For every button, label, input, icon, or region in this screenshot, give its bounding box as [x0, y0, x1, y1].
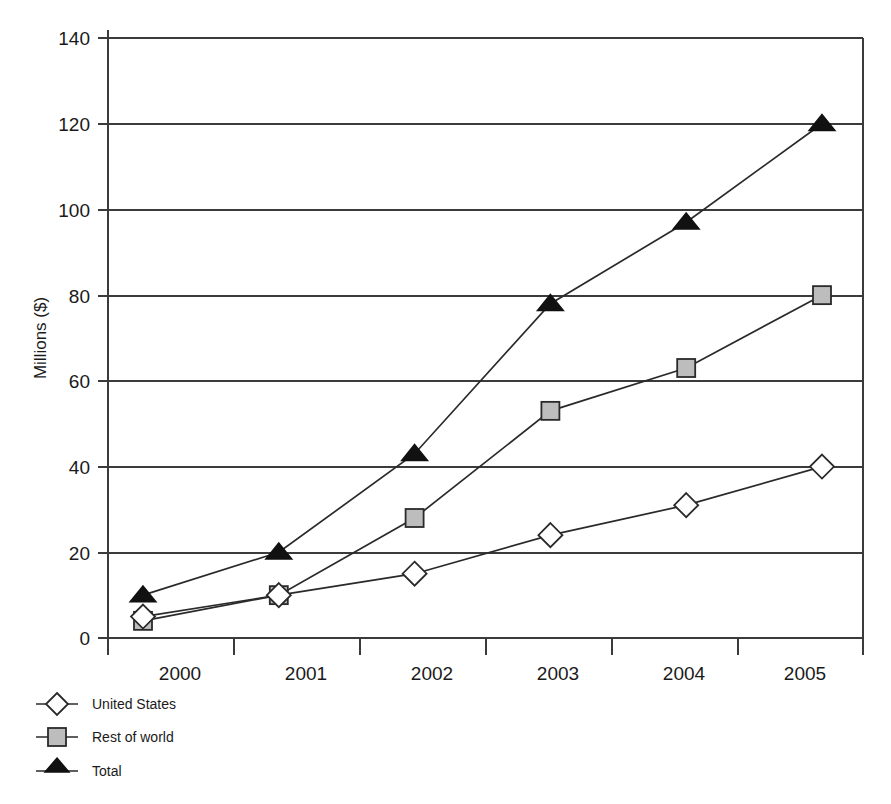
data-point-marker: [813, 286, 831, 304]
data-point-marker: [541, 402, 559, 420]
series-lines: [143, 124, 822, 621]
y-axis-title: Millions ($): [31, 297, 50, 379]
y-tick-label-40: 40: [69, 457, 90, 478]
y-tick-label-60: 60: [69, 371, 90, 392]
y-tick-label-120: 120: [58, 114, 90, 135]
y-tick-labels: 140 120 100 80 60 40 20 0: [58, 28, 90, 649]
legend-label-total: Total: [92, 763, 122, 779]
series-line-rest-of-world: [143, 295, 822, 621]
data-point-marker: [810, 455, 834, 479]
diamond-icon: [46, 693, 68, 715]
legend-label-united-states: United States: [92, 696, 176, 712]
x-tick-label-2003: 2003: [537, 663, 579, 684]
data-point-marker: [674, 493, 698, 517]
data-point-marker: [130, 586, 156, 602]
x-tick-label-2000: 2000: [159, 663, 201, 684]
series-line-united-states: [143, 467, 822, 617]
chart-svg: 140 120 100 80 60 40 20 0 Millions ($) 2…: [0, 0, 891, 804]
series-markers-rest-of-world: [134, 286, 831, 630]
y-tick-label-100: 100: [58, 200, 90, 221]
x-tick-labels: 2000 2001 2002 2003 2004 2005: [159, 663, 826, 684]
y-tick-label-140: 140: [58, 28, 90, 49]
data-point-marker: [677, 359, 695, 377]
legend-item-total[interactable]: Total: [36, 758, 122, 779]
y-tick-label-0: 0: [79, 628, 90, 649]
x-tick-label-2005: 2005: [784, 663, 826, 684]
data-point-marker: [406, 509, 424, 527]
y-tick-label-80: 80: [69, 286, 90, 307]
line-chart-figure: 140 120 100 80 60 40 20 0 Millions ($) 2…: [0, 0, 891, 804]
series-markers-total: [130, 114, 835, 601]
data-point-marker: [538, 523, 562, 547]
data-point-marker: [402, 444, 428, 460]
x-tick-marks: [108, 638, 863, 655]
legend-label-rest-of-world: Rest of world: [92, 729, 174, 745]
x-tick-label-2004: 2004: [663, 663, 706, 684]
triangle-icon: [45, 758, 69, 772]
y-tick-label-20: 20: [69, 543, 90, 564]
square-icon: [48, 728, 66, 746]
legend-item-united-states[interactable]: United States: [36, 693, 176, 715]
x-tick-label-2001: 2001: [285, 663, 327, 684]
legend-item-rest-of-world[interactable]: Rest of world: [36, 728, 174, 746]
data-point-marker: [537, 294, 563, 310]
x-tick-label-2002: 2002: [411, 663, 453, 684]
y-tick-marks: [98, 38, 108, 638]
data-point-marker: [403, 562, 427, 586]
gridlines: [108, 124, 863, 553]
series-line-total: [143, 124, 822, 595]
chart-legend: United States Rest of world Total: [36, 693, 176, 779]
data-point-marker: [809, 114, 835, 130]
